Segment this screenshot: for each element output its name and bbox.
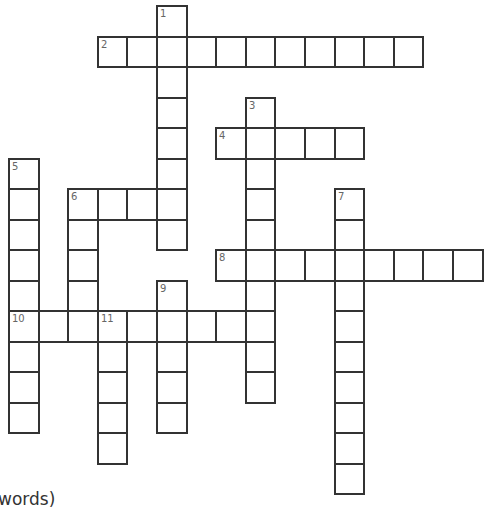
clue-number: 6 — [71, 191, 77, 202]
crossword-cell[interactable] — [156, 36, 188, 68]
crossword-cell[interactable] — [393, 249, 424, 282]
clue-number: 3 — [249, 100, 255, 111]
crossword-cell[interactable]: 3 — [245, 97, 276, 129]
crossword-cell[interactable] — [156, 341, 188, 373]
crossword-cell[interactable] — [8, 402, 40, 434]
crossword-cell[interactable]: 4 — [215, 127, 247, 160]
crossword-cell[interactable] — [8, 249, 40, 282]
clue-number: 5 — [12, 161, 18, 172]
clue-number: 4 — [219, 130, 225, 141]
crossword-cell[interactable] — [245, 127, 276, 160]
crossword-cell[interactable]: 11 — [97, 310, 128, 343]
crossword-cell[interactable]: 9 — [156, 280, 188, 312]
crossword-cell[interactable] — [334, 371, 365, 404]
crossword-cell[interactable]: 8 — [215, 249, 247, 282]
crossword-cell[interactable] — [245, 371, 276, 404]
crossword-cell[interactable] — [215, 36, 247, 68]
crossword-cell[interactable] — [452, 249, 484, 282]
crossword-cell[interactable] — [156, 188, 188, 221]
crossword-cell[interactable] — [126, 188, 158, 221]
crossword-cell[interactable] — [304, 36, 336, 68]
crossword-cell[interactable] — [393, 36, 424, 68]
crossword-cell[interactable] — [67, 249, 99, 282]
clue-number: 2 — [101, 39, 107, 50]
crossword-cell[interactable] — [245, 249, 276, 282]
crossword-cell[interactable] — [126, 310, 158, 343]
crossword-cell[interactable] — [97, 402, 128, 434]
crossword-cell[interactable] — [245, 219, 276, 251]
crossword-cell[interactable] — [8, 219, 40, 251]
crossword-cell[interactable] — [274, 127, 306, 160]
crossword-cell[interactable] — [156, 371, 188, 404]
crossword-cell[interactable] — [156, 310, 188, 343]
crossword-cell[interactable] — [422, 249, 454, 282]
crossword-cell[interactable] — [186, 310, 217, 343]
crossword-cell[interactable] — [97, 371, 128, 404]
crossword-cell[interactable] — [245, 158, 276, 190]
crossword-cell[interactable] — [363, 249, 395, 282]
crossword-cell[interactable] — [156, 402, 188, 434]
crossword-cell[interactable]: 5 — [8, 158, 40, 190]
crossword-cell[interactable] — [304, 127, 336, 160]
crossword-cell[interactable] — [334, 219, 365, 251]
crossword-cell[interactable] — [156, 219, 188, 251]
crossword-grid: 1234510678911 — [0, 0, 483, 500]
clue-number: 8 — [219, 252, 225, 263]
crossword-cell[interactable] — [304, 249, 336, 282]
crossword-cell[interactable] — [8, 188, 40, 221]
crossword-cell[interactable] — [67, 280, 99, 312]
crossword-cell[interactable] — [67, 219, 99, 251]
crossword-cell[interactable] — [245, 341, 276, 373]
crossword-cell[interactable] — [8, 280, 40, 312]
crossword-cell[interactable] — [156, 66, 188, 99]
crossword-cell[interactable]: 1 — [156, 5, 188, 38]
crossword-cell[interactable] — [334, 341, 365, 373]
crossword-cell[interactable]: 6 — [67, 188, 99, 221]
crossword-cell[interactable] — [245, 280, 276, 312]
crossword-cell[interactable] — [97, 432, 128, 465]
crossword-cell[interactable] — [334, 280, 365, 312]
crossword-cell[interactable] — [245, 310, 276, 343]
crossword-cell[interactable] — [334, 432, 365, 465]
crossword-cell[interactable]: 7 — [334, 188, 365, 221]
crossword-cell[interactable] — [245, 188, 276, 221]
crossword-cell[interactable] — [245, 36, 276, 68]
crossword-cell[interactable] — [97, 341, 128, 373]
crossword-cell[interactable] — [334, 127, 365, 160]
crossword-cell[interactable]: 2 — [97, 36, 128, 68]
clue-number: 9 — [160, 283, 166, 294]
footer-text: words) — [0, 489, 55, 509]
crossword-cell[interactable] — [334, 310, 365, 343]
clue-number: 7 — [338, 191, 344, 202]
crossword-cell[interactable]: 10 — [8, 310, 40, 343]
crossword-cell[interactable] — [8, 371, 40, 404]
clue-number: 10 — [12, 313, 25, 324]
crossword-cell[interactable] — [186, 36, 217, 68]
clue-number: 11 — [101, 313, 114, 324]
crossword-cell[interactable] — [215, 310, 247, 343]
crossword-cell[interactable] — [334, 463, 365, 495]
crossword-cell[interactable] — [363, 36, 395, 68]
crossword-cell[interactable] — [38, 310, 69, 343]
crossword-cell[interactable] — [334, 402, 365, 434]
crossword-cell[interactable] — [156, 97, 188, 129]
crossword-cell[interactable] — [67, 310, 99, 343]
crossword-cell[interactable] — [334, 36, 365, 68]
crossword-cell[interactable] — [126, 36, 158, 68]
crossword-cell[interactable] — [156, 158, 188, 190]
crossword-cell[interactable] — [274, 249, 306, 282]
crossword-cell[interactable] — [8, 341, 40, 373]
crossword-cell[interactable] — [156, 127, 188, 160]
crossword-cell[interactable] — [274, 36, 306, 68]
clue-number: 1 — [160, 8, 166, 19]
crossword-cell[interactable] — [97, 188, 128, 221]
crossword-cell[interactable] — [334, 249, 365, 282]
